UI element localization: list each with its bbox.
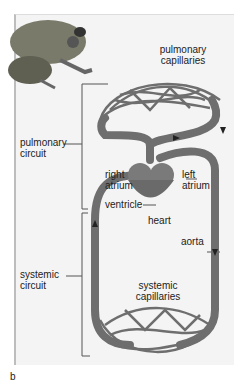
label-line: capillaries: [148, 55, 218, 66]
label-right-atrium: right atrium: [105, 169, 133, 191]
pulmonary-down-arrow-icon: [220, 127, 226, 134]
frog-illustration: [8, 20, 92, 88]
label-line: right: [105, 169, 133, 180]
label-ventricle: ventricle: [105, 199, 142, 210]
label-line: pulmonary: [148, 44, 218, 55]
label-pulmonary-capillaries: pulmonary capillaries: [148, 44, 218, 66]
label-line: systemic: [20, 269, 59, 280]
label-left-atrium: left atrium: [182, 169, 210, 191]
label-line: circuit: [20, 280, 59, 291]
label-heart: heart: [148, 215, 171, 226]
heart: [128, 163, 174, 198]
label-systemic-capillaries: systemic capillaries: [128, 280, 188, 302]
label-systemic-circuit: systemic circuit: [20, 269, 59, 291]
label-line: capillaries: [128, 291, 188, 302]
bracket-lines: [64, 84, 220, 356]
label-line: circuit: [20, 148, 67, 159]
label-line: pulmonary: [20, 137, 67, 148]
panel-letter: b: [10, 371, 16, 382]
label-line: atrium: [182, 180, 210, 191]
pulmonary-capillaries-net: [100, 84, 220, 120]
systemic-capillaries-net: [100, 308, 215, 352]
label-line: left: [182, 169, 210, 180]
label-line: systemic: [128, 280, 188, 291]
label-aorta: aorta: [181, 236, 204, 247]
label-line: atrium: [105, 180, 133, 191]
label-pulmonary-circuit: pulmonary circuit: [20, 137, 67, 159]
